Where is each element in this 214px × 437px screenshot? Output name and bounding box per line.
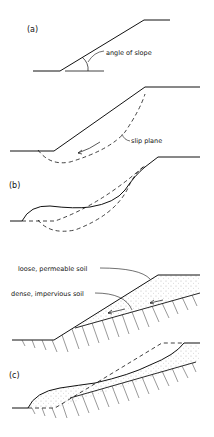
panel-a: (a) angle of slope xyxy=(27,20,170,71)
panel-c: (c) xyxy=(9,343,200,418)
panel-slip-plane: slip plane xyxy=(10,87,200,163)
dense-impervious-soil-label: dense, impervious soil xyxy=(11,290,84,298)
panel-label-b: (b) xyxy=(9,181,20,190)
panel-soil-layers: loose, permeable soil dense, impervious … xyxy=(11,265,200,352)
panel-b: (b) xyxy=(9,157,200,231)
panel-label-c: (c) xyxy=(9,371,20,380)
slip-plane-label: slip plane xyxy=(131,137,162,145)
panel-label-a: (a) xyxy=(27,25,38,34)
angle-arc-icon xyxy=(82,57,88,71)
loose-permeable-soil-label: loose, permeable soil xyxy=(18,265,87,273)
angle-of-slope-label: angle of slope xyxy=(106,49,152,57)
slope-failure-diagram: (a) angle of slope slip plane (b) xyxy=(0,0,214,437)
